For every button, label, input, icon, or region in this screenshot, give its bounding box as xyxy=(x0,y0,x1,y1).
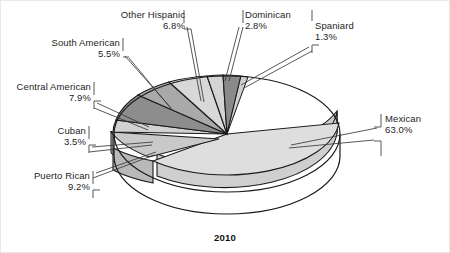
leader-dominican-pointer2 xyxy=(229,27,243,81)
label-central-american-percent: 7.9% xyxy=(1,92,91,103)
label-puerto-rican: Puerto Rican 9.2% xyxy=(1,170,90,192)
label-dominican-name: Dominican xyxy=(245,9,291,20)
label-south-american-name: South American xyxy=(25,37,120,48)
pie-3d-body xyxy=(111,75,340,214)
label-mexican-name: Mexican xyxy=(385,113,421,124)
label-cuban-name: Cuban xyxy=(1,125,86,136)
label-spaniard: Spaniard 1.3% xyxy=(315,20,354,42)
label-mexican-percent: 63.0% xyxy=(385,124,421,135)
label-puerto-rican-name: Puerto Rican xyxy=(1,170,90,181)
leader-spaniard-pointer xyxy=(241,47,309,85)
label-other-hispanic-name: Other Hispanic xyxy=(89,9,185,20)
pie-chart-figure: Other Hispanic 6.8% Dominican 2.8% Spani… xyxy=(0,0,450,253)
label-spaniard-name: Spaniard xyxy=(315,20,354,31)
label-south-american-percent: 5.5% xyxy=(25,48,120,59)
label-spaniard-percent: 1.3% xyxy=(315,31,354,42)
label-central-american-name: Central American xyxy=(1,81,91,92)
label-south-american: South American 5.5% xyxy=(25,37,120,59)
label-other-hispanic: Other Hispanic 6.8% xyxy=(89,9,185,31)
label-central-american: Central American 7.9% xyxy=(1,81,91,103)
label-puerto-rican-percent: 9.2% xyxy=(1,181,90,192)
leader-dominican-pointer xyxy=(225,27,239,81)
label-cuban-percent: 3.5% xyxy=(1,136,86,147)
label-cuban: Cuban 3.5% xyxy=(1,125,86,147)
chart-year-title: 2010 xyxy=(1,232,449,243)
label-dominican-percent: 2.8% xyxy=(245,20,291,31)
label-dominican: Dominican 2.8% xyxy=(245,9,291,31)
label-other-hispanic-percent: 6.8% xyxy=(89,20,185,31)
label-mexican: Mexican 63.0% xyxy=(385,113,421,135)
